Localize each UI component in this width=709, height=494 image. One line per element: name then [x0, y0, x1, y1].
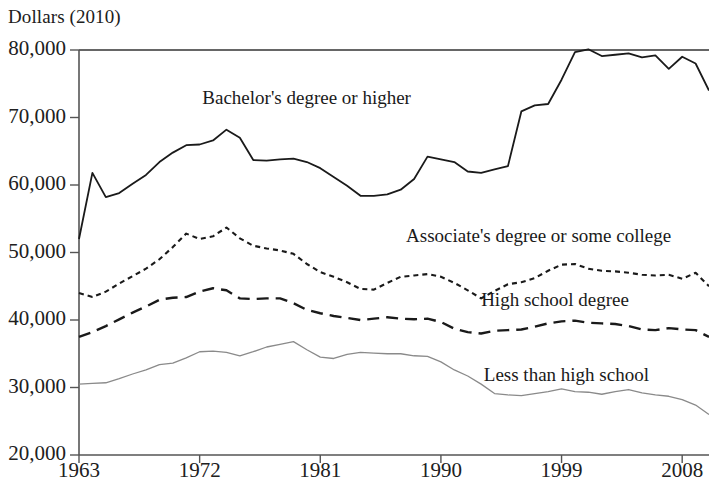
x-axis-tick-label: 1981: [275, 458, 365, 483]
series-label: Less than high school: [484, 364, 649, 386]
x-axis-tick-label: 1963: [34, 458, 124, 483]
y-axis-tick-label: 50,000: [0, 239, 66, 264]
y-axis-tick-label: 30,000: [0, 374, 66, 399]
x-axis-tick-label: 1999: [517, 458, 607, 483]
y-axis-ticks: [70, 50, 79, 455]
axis-lines: [79, 50, 709, 455]
x-axis-tick-label: 1990: [396, 458, 486, 483]
y-axis-tick-label: 80,000: [0, 36, 66, 61]
plot-area: [0, 0, 709, 494]
x-axis-tick-label: 1972: [155, 458, 245, 483]
x-axis-tick-label: 2008: [637, 458, 709, 483]
y-axis-tick-label: 40,000: [0, 306, 66, 331]
chart-figure: Dollars (2010) 20,00030,00040,00050,0006…: [0, 0, 709, 494]
y-axis-tick-label: 70,000: [0, 104, 66, 129]
series-line: [79, 49, 709, 239]
series-label: Associate's degree or some college: [406, 225, 671, 247]
series-label: Bachelor's degree or higher: [202, 87, 411, 109]
y-axis-tick-label: 60,000: [0, 171, 66, 196]
series-label: High school degree: [481, 289, 629, 311]
